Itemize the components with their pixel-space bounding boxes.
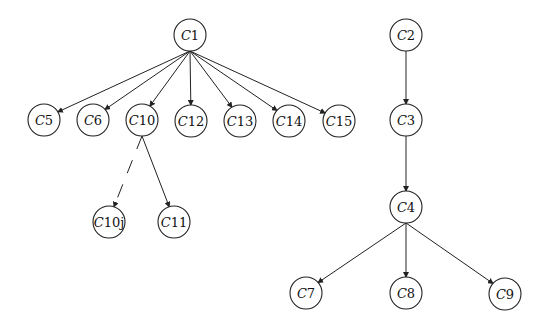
edge-c1-to-c6 <box>105 51 190 109</box>
node-c10j: C10j <box>93 206 125 238</box>
node-label: C9 <box>496 287 514 302</box>
node-c3: C3 <box>390 104 422 136</box>
edge-c1-to-c10 <box>150 51 190 106</box>
edge-c1-to-c13 <box>190 51 232 107</box>
node-label: C15 <box>326 114 353 129</box>
node-c13: C13 <box>224 105 256 137</box>
node-label: C6 <box>84 113 102 128</box>
node-label: C3 <box>397 113 415 128</box>
node-c1: C1 <box>174 19 206 51</box>
node-c7: C7 <box>290 277 322 309</box>
node-label: C10 <box>129 113 156 128</box>
edge-c4-to-c9 <box>406 223 493 283</box>
node-label: C1 <box>181 28 199 43</box>
node-label: C13 <box>227 114 254 129</box>
node-label: C7 <box>297 286 315 301</box>
edge-c1-to-c12 <box>190 51 191 105</box>
node-c8: C8 <box>390 277 422 309</box>
node-label: C12 <box>178 114 205 129</box>
edge-c1-to-c14 <box>190 51 277 111</box>
node-c10: C10 <box>126 104 158 136</box>
node-c5: C5 <box>28 104 60 136</box>
node-label: C8 <box>397 286 415 301</box>
edge-c10-to-c11 <box>142 136 169 207</box>
node-c11: C11 <box>158 206 190 238</box>
node-c2: C2 <box>390 19 422 51</box>
nodes-layer: C1C5C6C10C12C13C14C15C10jC11C2C3C4C7C8C9 <box>28 19 521 310</box>
node-label: C5 <box>35 113 53 128</box>
node-c9: C9 <box>489 278 521 310</box>
node-c15: C15 <box>323 105 355 137</box>
node-c4: C4 <box>390 191 422 223</box>
node-label: C2 <box>397 28 415 43</box>
node-label: C14 <box>276 114 303 129</box>
node-c12: C12 <box>175 105 207 137</box>
node-label: C4 <box>397 200 415 215</box>
edge-c10-to-c10j <box>114 136 142 207</box>
node-label: C11 <box>161 215 188 230</box>
edges-layer <box>58 51 493 283</box>
node-label: C10j <box>94 215 125 230</box>
tree-diagram: C1C5C6C10C12C13C14C15C10jC11C2C3C4C7C8C9 <box>0 0 544 331</box>
node-c14: C14 <box>273 105 305 137</box>
edge-c1-to-c5 <box>58 51 190 112</box>
edge-c1-to-c15 <box>190 51 325 113</box>
edge-c4-to-c7 <box>318 223 406 283</box>
node-c6: C6 <box>77 104 109 136</box>
